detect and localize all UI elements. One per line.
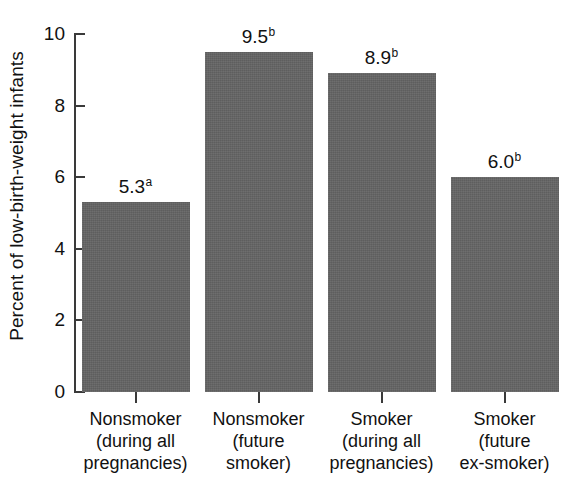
bar[interactable]: 5.3a xyxy=(82,202,190,392)
bar-value-superscript: a xyxy=(146,175,153,189)
y-axis-tick-label: 10 xyxy=(44,23,65,45)
x-axis-category-label-line: Smoker xyxy=(320,408,443,430)
x-axis-category-label-line: ex-smoker) xyxy=(443,452,566,474)
x-axis-category-label-line: Nonsmoker xyxy=(74,408,197,430)
x-axis-category-label: Nonsmoker(during allpregnancies) xyxy=(74,408,197,474)
x-axis-category-label-line: (future xyxy=(443,430,566,452)
x-axis-category-label-line: pregnancies) xyxy=(320,452,443,474)
x-axis-category-label-line: Nonsmoker xyxy=(197,408,320,430)
bar-value-superscript: b xyxy=(269,25,276,39)
x-axis-tick-mark xyxy=(258,392,260,403)
bar-chart-figure: Percent of low-birth-weight infants 0246… xyxy=(0,0,588,490)
y-axis-tick-label: 4 xyxy=(54,238,65,260)
x-axis-category-label-line: (future xyxy=(197,430,320,452)
bar-value-superscript: b xyxy=(515,150,522,164)
x-axis-category-label: Nonsmoker(futuresmoker) xyxy=(197,408,320,474)
bar-value-label: 9.5b xyxy=(242,26,276,48)
bar-value-label: 5.3a xyxy=(119,176,153,198)
bar-value-label: 8.9b xyxy=(365,47,399,69)
x-axis-tick-mark xyxy=(381,392,383,403)
bar[interactable]: 6.0b xyxy=(451,177,559,392)
x-axis-tick-mark xyxy=(135,392,137,403)
bar[interactable]: 9.5b xyxy=(205,52,313,392)
x-axis-category-label-line: pregnancies) xyxy=(74,452,197,474)
y-axis-title: Percent of low-birth-weight infants xyxy=(0,0,34,392)
bar[interactable]: 8.9b xyxy=(328,73,436,392)
y-axis-tick-label: 0 xyxy=(54,381,65,403)
plot-area: 5.3a9.5b8.9b6.0b xyxy=(74,34,566,392)
bar-value-label: 6.0b xyxy=(488,151,522,173)
y-axis-tick-label: 2 xyxy=(54,309,65,331)
x-axis-category-label-line: Smoker xyxy=(443,408,566,430)
y-axis-tick-label: 6 xyxy=(54,166,65,188)
x-axis-category-label-line: smoker) xyxy=(197,452,320,474)
x-axis-category-label-line: (during all xyxy=(320,430,443,452)
x-axis-category-label-line: (during all xyxy=(74,430,197,452)
x-axis-category-label: Smoker(futureex-smoker) xyxy=(443,408,566,474)
y-axis-tick-label: 8 xyxy=(54,95,65,117)
x-axis-tick-mark xyxy=(504,392,506,403)
bar-value-superscript: b xyxy=(392,46,399,60)
x-axis-category-label: Smoker(during allpregnancies) xyxy=(320,408,443,474)
